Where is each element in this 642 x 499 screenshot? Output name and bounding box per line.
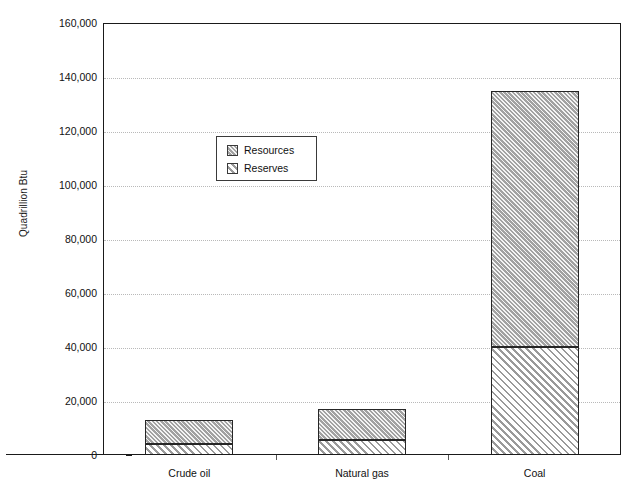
x-tick-label: Coal [524,467,546,479]
y-tick-label: 40,000 [35,342,97,352]
legend-label-reserves: Reserves [244,163,288,174]
stacked-bar-chart: Quadrillion Btu 160,000140,000120,000100… [0,0,642,499]
y-tick-label: 0 [35,450,97,460]
y-axis-ticks: 160,000140,000120,000100,00080,00060,000… [29,23,97,455]
plot-area [103,23,621,455]
y-tick-label: 20,000 [35,396,97,406]
y-tick-label: 80,000 [35,234,97,244]
y-tick-label: 60,000 [35,288,97,298]
gridline [104,402,620,403]
y-tick-label: 160,000 [35,18,97,28]
gridline [104,240,620,241]
gridline [104,186,620,187]
x-tick-mark [276,455,277,460]
legend: Resources Reserves [216,136,317,181]
legend-swatch-resources-icon [227,145,238,156]
gridline [104,294,620,295]
x-tick-mark [448,455,449,460]
y-tick-label: 100,000 [35,180,97,190]
y-tick-label: 140,000 [35,72,97,82]
gridline [104,132,620,133]
y-tick-mark [126,455,132,456]
x-axis-extension-line [6,454,103,455]
legend-item-resources: Resources [227,142,316,159]
gridline [104,78,620,79]
gridline [104,348,620,349]
y-axis-title: Quadrillion Btu [18,134,29,274]
x-tick-label: Natural gas [335,467,389,479]
y-tick-label: 120,000 [35,126,97,136]
legend-swatch-reserves-icon [227,163,238,174]
legend-item-reserves: Reserves [227,160,316,177]
x-tick-label: Crude oil [168,467,210,479]
legend-label-resources: Resources [244,145,294,156]
x-axis-line [103,454,621,455]
